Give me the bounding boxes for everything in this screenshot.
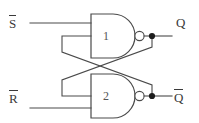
output-label-q-bar-text: Q <box>174 89 183 105</box>
input-label-r-bar-text: R <box>9 90 18 106</box>
gate-1-body <box>91 14 135 58</box>
output-label-q: Q <box>176 16 185 29</box>
logic-circuit-diagram: 1 2 S R Q Q <box>0 0 199 123</box>
gate-2-inversion-bubble <box>135 91 144 100</box>
input-label-s-bar: S <box>9 15 16 31</box>
output-label-q-text: Q <box>176 15 185 30</box>
nand-gate-1[interactable]: 1 <box>91 14 144 58</box>
input-label-s-bar-text: S <box>9 15 16 31</box>
circuit-schematic: 1 2 <box>0 0 199 123</box>
nand-gate-2[interactable]: 2 <box>91 74 144 118</box>
junction-dot-qbar <box>149 93 155 99</box>
gate-2-number: 2 <box>103 89 109 103</box>
input-label-r-bar: R <box>9 90 18 106</box>
output-label-q-bar: Q <box>174 89 183 105</box>
gate-1-number: 1 <box>103 29 109 43</box>
junction-dot-q <box>149 33 155 39</box>
gate-2-body <box>91 74 135 118</box>
gate-1-inversion-bubble <box>135 31 144 40</box>
